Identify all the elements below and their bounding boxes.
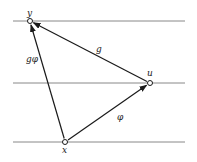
edge-label-g-phi: gφ <box>26 54 39 64</box>
edge-g-phi <box>31 25 64 139</box>
node-u <box>148 81 153 86</box>
node-label-u: u <box>147 68 153 78</box>
diagram-canvas: y u x g φ gφ <box>0 0 197 162</box>
node-label-x: x <box>62 145 67 155</box>
node-y <box>28 19 33 24</box>
node-label-y: y <box>26 8 33 18</box>
edge-label-phi: φ <box>117 112 124 122</box>
node-x <box>63 140 68 145</box>
edge-label-g: g <box>96 44 102 54</box>
edge-g <box>34 23 148 82</box>
edge-phi <box>68 85 147 140</box>
